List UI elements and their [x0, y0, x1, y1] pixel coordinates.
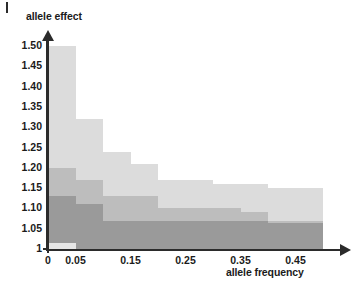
y-axis-line — [46, 40, 49, 251]
x-axis-arrow-icon — [340, 244, 351, 256]
y-axis-tick-label: 1.40 — [8, 80, 42, 92]
y-axis-tick-label: 1.15 — [8, 181, 42, 193]
y-axis-tick-label: 1.35 — [8, 100, 42, 112]
y-axis-tick-label: 1.50 — [8, 39, 42, 51]
y-axis-tick-label: 1.25 — [8, 141, 42, 153]
y-axis-tick-label: 1.20 — [8, 161, 42, 173]
x-axis-tick-label: 0 — [45, 254, 51, 266]
chart-figure: allele effect allele frequency 11.051.10… — [0, 0, 363, 291]
series-layer-baseline — [48, 38, 334, 249]
x-axis-tick-mark — [47, 246, 49, 253]
y-axis-tick-label: 1.05 — [8, 222, 42, 234]
y-axis-arrow-icon — [42, 30, 54, 41]
x-axis-title: allele frequency — [226, 266, 304, 278]
plot-area — [48, 38, 334, 249]
y-axis-tick-label: 1.30 — [8, 120, 42, 132]
x-axis-tick-label: 0.15 — [120, 254, 140, 266]
y-axis-tick-label: 1 — [8, 242, 42, 254]
x-axis-tick-label: 0.45 — [285, 254, 305, 266]
x-axis-line — [46, 249, 342, 252]
y-axis-tick-label: 1.45 — [8, 59, 42, 71]
y-axis-tick-labels: 11.051.101.151.201.251.301.351.401.451.5… — [4, 0, 42, 291]
x-axis-tick-label: 0.05 — [65, 254, 85, 266]
x-axis-tick-label: 0.35 — [230, 254, 250, 266]
x-axis-tick-label: 0.25 — [175, 254, 195, 266]
y-axis-tick-label: 1.10 — [8, 201, 42, 213]
